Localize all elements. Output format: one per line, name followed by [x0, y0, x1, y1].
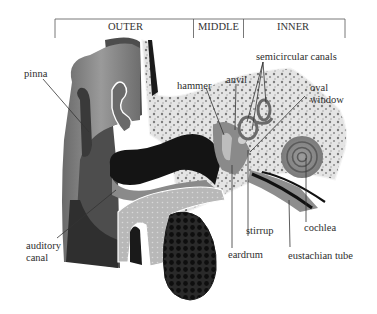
- parotid-gland: [163, 212, 216, 300]
- label-pinna: pinna: [24, 68, 47, 79]
- label-cochlea: cochlea: [304, 222, 336, 233]
- ear-diagram: [0, 0, 377, 314]
- label-auditory-canal-line2: canal: [26, 252, 48, 263]
- label-oval-window-line1: oval: [310, 82, 328, 93]
- section-outer: OUTER: [108, 21, 143, 32]
- label-hammer: hammer: [177, 80, 211, 91]
- label-eardrum: eardrum: [228, 249, 263, 260]
- label-oval-window-line2: window: [310, 94, 344, 105]
- cochlea-shape: [281, 136, 323, 178]
- section-middle: MIDDLE: [198, 21, 239, 32]
- label-semicircular-canals: semicircular canals: [256, 51, 337, 62]
- label-anvil: anvil: [226, 74, 247, 85]
- label-auditory-canal-line1: auditory: [26, 240, 61, 251]
- section-inner: INNER: [277, 21, 309, 32]
- eustachian-tube: [248, 170, 325, 212]
- label-eustachian-tube: eustachian tube: [288, 250, 353, 261]
- label-stirrup: stirrup: [246, 225, 273, 236]
